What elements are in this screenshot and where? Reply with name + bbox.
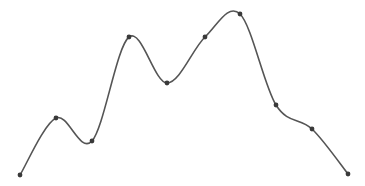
data-point-6 xyxy=(238,12,243,17)
data-point-markers xyxy=(18,12,351,178)
smooth-line-series xyxy=(20,11,348,175)
data-point-1 xyxy=(54,116,59,121)
data-point-0 xyxy=(18,173,23,178)
data-point-4 xyxy=(165,81,170,86)
data-point-8 xyxy=(310,127,315,132)
data-point-7 xyxy=(274,103,279,108)
line-chart xyxy=(0,0,365,186)
data-point-9 xyxy=(346,172,351,177)
data-point-2 xyxy=(90,139,95,144)
data-point-5 xyxy=(203,35,208,40)
data-point-3 xyxy=(127,35,132,40)
